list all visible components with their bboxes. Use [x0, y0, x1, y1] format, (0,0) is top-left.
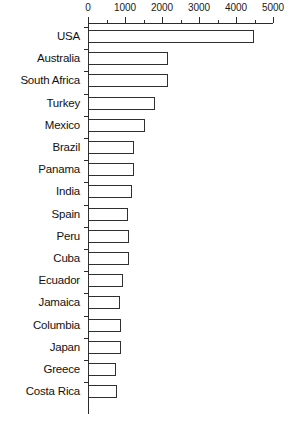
plot-area: USAAustraliaSouth AfricaTurkeyMexicoBraz…: [0, 24, 288, 421]
category-label: Spain: [2, 208, 80, 221]
y-axis-tick: [84, 227, 88, 228]
category-label: Panama: [2, 163, 80, 176]
category-label: Jamaica: [2, 296, 80, 309]
bar: [88, 252, 129, 265]
x-axis-major-tick: [273, 17, 274, 23]
category-label: India: [2, 185, 80, 198]
bar: [88, 141, 134, 154]
category-label: Turkey: [2, 97, 80, 110]
y-axis-tick: [84, 205, 88, 206]
y-axis-tick: [84, 293, 88, 294]
bar: [88, 97, 155, 110]
bar-row: Ecuador: [0, 271, 288, 293]
y-axis-tick: [84, 382, 88, 383]
y-axis-tick: [84, 138, 88, 139]
bar-row: Japan: [0, 338, 288, 360]
x-axis-tick-label: 1000: [114, 3, 136, 13]
category-label: Ecuador: [2, 274, 80, 287]
y-axis-tick: [84, 49, 88, 50]
x-axis-tick-label: 3000: [188, 3, 210, 13]
y-axis-tick: [84, 116, 88, 117]
horizontal-bar-chart: 010002000300040005000 USAAustraliaSouth …: [0, 0, 288, 421]
bar: [88, 208, 128, 221]
bar: [88, 274, 123, 287]
bar: [88, 74, 168, 87]
y-axis-tick: [84, 338, 88, 339]
x-axis-tick-label: 5000: [262, 3, 284, 13]
category-label: USA: [2, 30, 80, 43]
y-axis-tick: [84, 27, 88, 28]
y-axis-tick: [84, 71, 88, 72]
bar: [88, 230, 129, 243]
bar-row: Panama: [0, 160, 288, 182]
bar: [88, 385, 117, 398]
y-axis-tick: [84, 360, 88, 361]
category-label: Columbia: [2, 319, 80, 332]
bar-row: Jamaica: [0, 293, 288, 315]
category-label: Costa Rica: [2, 385, 80, 398]
y-axis-tick: [84, 271, 88, 272]
y-axis-tick: [84, 249, 88, 250]
bar-row: India: [0, 182, 288, 204]
bar: [88, 119, 145, 132]
bar-row: Australia: [0, 49, 288, 71]
bar-row: Cuba: [0, 249, 288, 271]
category-label: Australia: [2, 52, 80, 65]
bar: [88, 30, 254, 43]
category-label: Greece: [2, 363, 80, 376]
bar: [88, 296, 120, 309]
bar-row: Turkey: [0, 94, 288, 116]
category-label: South Africa: [2, 74, 80, 87]
bar-row: Greece: [0, 360, 288, 382]
category-label: Cuba: [2, 252, 80, 265]
y-axis-tick: [84, 160, 88, 161]
category-label: Peru: [2, 230, 80, 243]
category-label: Japan: [2, 341, 80, 354]
x-axis-tick-label: 4000: [225, 3, 247, 13]
category-label: Brazil: [2, 141, 80, 154]
y-axis-tick: [84, 316, 88, 317]
bar: [88, 163, 134, 176]
bar: [88, 52, 168, 65]
y-axis-tick: [84, 182, 88, 183]
category-label: Mexico: [2, 119, 80, 132]
bar: [88, 363, 116, 376]
bar-row: Columbia: [0, 316, 288, 338]
bar: [88, 319, 121, 332]
bar-row: Brazil: [0, 138, 288, 160]
bar: [88, 341, 121, 354]
bar-row: Peru: [0, 227, 288, 249]
bar-row: Mexico: [0, 116, 288, 138]
x-axis-tick-label: 0: [85, 3, 90, 13]
bar-row: USA: [0, 27, 288, 49]
bar-row: Spain: [0, 205, 288, 227]
bar: [88, 185, 132, 198]
y-axis-tick: [84, 94, 88, 95]
x-axis-tick-label: 2000: [151, 3, 173, 13]
bar-row: Costa Rica: [0, 382, 288, 404]
bar-row: South Africa: [0, 71, 288, 93]
